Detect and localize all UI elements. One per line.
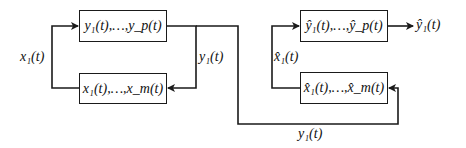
left-branch-label: y₁(t) [199, 49, 223, 65]
right-bottom-block: x̂₁(t),…,x̂_m(t) [300, 72, 388, 104]
right-bottom-block-label: x̂₁(t),…,x̂_m(t) [304, 80, 384, 96]
left-bottom-block-label: x₁(t),…,x_m(t) [83, 81, 163, 97]
left-bottom-block: x₁(t),…,x_m(t) [79, 73, 167, 104]
connection-wires [0, 0, 466, 148]
right-top-block-label: ŷ₁(t),…,ŷ_p(t) [305, 18, 382, 34]
right-top-block: ŷ₁(t),…,ŷ_p(t) [300, 10, 388, 42]
left-feedback-label: x₁(t) [20, 49, 44, 65]
connection-label: y₁(t) [298, 126, 322, 142]
right-output-label: ŷ₁(t) [416, 17, 440, 33]
left-top-block-label: y₁(t),…,y_p(t) [84, 18, 161, 34]
right-feedback-label: x̂₁(t) [274, 49, 298, 65]
left-top-block: y₁(t),…,y_p(t) [79, 10, 167, 42]
